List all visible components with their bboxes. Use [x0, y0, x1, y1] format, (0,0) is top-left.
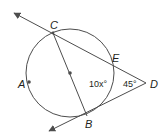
label-e: E [112, 52, 120, 64]
label-b: B [85, 118, 92, 130]
center-dot [68, 71, 72, 75]
label-d: D [150, 78, 158, 90]
point-a-dot [27, 80, 31, 84]
tangent-line-db [49, 83, 146, 131]
angle-d-measure-label: 45° [123, 79, 137, 89]
point-c-dot [52, 32, 55, 35]
label-c: C [50, 19, 58, 31]
arc-measure-label: 10x° [89, 79, 108, 89]
label-a: A [17, 78, 25, 90]
geometry-diagram: C E A D B 10x° 45° [0, 0, 165, 138]
diagram-canvas: C E A D B 10x° 45° [0, 0, 165, 138]
